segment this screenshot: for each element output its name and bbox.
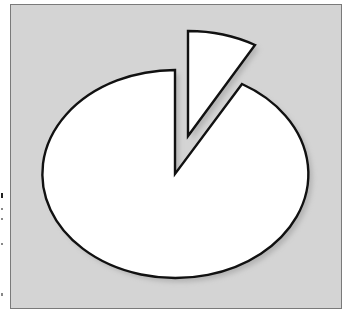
pie-chart: [0, 0, 351, 316]
pie-slice-main: [42, 70, 308, 278]
